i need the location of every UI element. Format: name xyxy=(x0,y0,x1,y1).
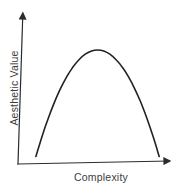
x-axis-line xyxy=(18,161,169,164)
x-axis-label: Complexity xyxy=(74,171,128,183)
aesthetic-curve xyxy=(36,50,159,157)
y-axis-label: Aesthetic Value xyxy=(8,50,20,125)
wundt-curve-figure: Aesthetic Value Complexity xyxy=(0,0,181,193)
plot-canvas xyxy=(0,0,181,193)
